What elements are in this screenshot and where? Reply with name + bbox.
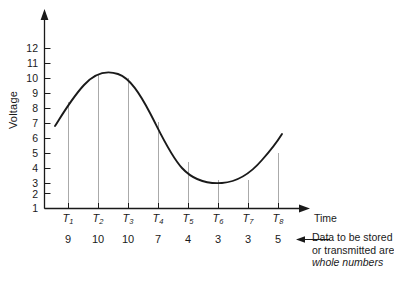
x-tick-subscript: 7 [249, 217, 253, 226]
x-axis [45, 205, 311, 213]
y-axis-ticks [45, 49, 51, 209]
x-tick-label-t2: T2 [85, 213, 111, 225]
x-axis-ticks [69, 203, 279, 209]
sample-value-t3: 10 [115, 234, 141, 245]
x-tick-label-t1: T1 [55, 213, 81, 225]
sample-value-t1: 9 [55, 234, 81, 245]
sample-value-t2: 10 [85, 234, 111, 245]
y-tick-label: 11 [22, 58, 38, 68]
annotation-text: Data to be stored or transmitted are who… [312, 231, 394, 269]
x-tick-label-t4: T4 [145, 213, 171, 225]
annotation-line-2: or transmitted are [312, 244, 394, 257]
y-tick-label: 7 [22, 118, 38, 128]
annotation-line-1: Data to be stored [312, 231, 394, 244]
y-tick-label: 10 [22, 73, 38, 83]
y-tick-label: 9 [22, 88, 38, 98]
x-tick-subscript: 6 [219, 217, 223, 226]
x-tick-label-t7: T7 [235, 213, 261, 225]
y-tick-label: 6 [22, 133, 38, 143]
y-axis-arrow-icon [41, 9, 49, 20]
sample-value-t7: 3 [235, 234, 261, 245]
x-tick-label-t6: T6 [205, 213, 231, 225]
x-tick-subscript: 3 [129, 217, 133, 226]
x-axis-arrow-icon [299, 205, 310, 213]
sample-value-t5: 4 [175, 234, 201, 245]
y-tick-label: 1 [22, 203, 38, 213]
y-tick-label: 4 [22, 163, 38, 173]
y-tick-label: 2 [22, 189, 38, 199]
annotation-line-3: whole numbers [312, 256, 394, 269]
y-tick-label: 3 [22, 178, 38, 188]
y-tick-label: 12 [22, 43, 38, 53]
x-axis-label: Time [314, 213, 337, 224]
x-tick-subscript: 1 [69, 217, 73, 226]
x-tick-label-t8: T8 [265, 213, 291, 225]
x-tick-subscript: 4 [159, 217, 163, 226]
y-axis-label: Voltage [7, 80, 19, 140]
x-tick-label-t3: T3 [115, 213, 141, 225]
x-tick-subscript: 2 [99, 217, 103, 226]
leader-arrow-icon [296, 236, 305, 243]
x-tick-label-t5: T5 [175, 213, 201, 225]
signal-curve [55, 72, 282, 183]
x-tick-subscript: 8 [279, 217, 283, 226]
sample-value-t8: 5 [265, 234, 291, 245]
sample-droplines [69, 75, 279, 208]
sample-value-t6: 3 [205, 234, 231, 245]
y-tick-label: 8 [22, 103, 38, 113]
sample-value-t4: 7 [145, 234, 171, 245]
y-tick-label: 5 [22, 148, 38, 158]
x-tick-subscript: 5 [189, 217, 193, 226]
